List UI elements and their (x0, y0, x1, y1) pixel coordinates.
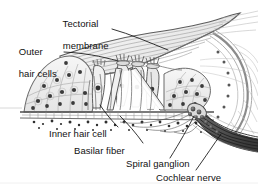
label-basilar-fiber: Basilar fiber (74, 145, 125, 156)
label-outer-hair-cells-line1: Outer (19, 46, 43, 57)
label-tectorial-membrane: Tectorial membrane (52, 7, 109, 62)
label-spiral-ganglion: Spiral ganglion (126, 158, 190, 169)
label-outer-hair-cells-line2: hair cells (19, 68, 57, 79)
label-inner-hair-cell: Inner hair cell (49, 128, 107, 139)
label-cochlear-nerve: Cochlear nerve (156, 172, 221, 183)
organ-of-corti-figure: Tectorial membrane Outer hair cells Inne… (0, 0, 258, 190)
label-tectorial-membrane-line1: Tectorial (63, 18, 99, 29)
label-tectorial-membrane-line2: membrane (63, 40, 109, 51)
label-outer-hair-cells: Outer hair cells (8, 35, 57, 90)
